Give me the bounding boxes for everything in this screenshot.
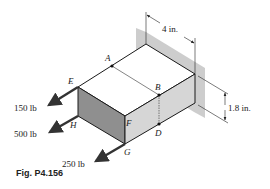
figure-caption: Fig. P4.156: [16, 168, 63, 178]
label-E: E: [67, 76, 74, 86]
point-B: [157, 93, 160, 96]
label-F: F: [125, 118, 132, 128]
label-A: A: [104, 53, 111, 63]
force-label-250: 250 lb: [62, 159, 85, 169]
label-D: D: [154, 128, 162, 138]
force-arrow-E: [49, 87, 78, 105]
label-G: G: [124, 147, 131, 157]
label-B: B: [155, 82, 161, 92]
force-label-150: 150 lb: [14, 103, 37, 113]
force-arrow-G: [96, 144, 125, 161]
dim-line-4in-a: [147, 15, 160, 23]
dim-label-height: 1.8 in.: [228, 103, 251, 113]
point-D: [157, 122, 160, 125]
force-label-500: 500 lb: [14, 129, 37, 139]
dim-line-4in-b: [184, 37, 194, 43]
diagram-canvas: A B D E F G H 150 lb 500 lb 250 lb 4 in.…: [0, 0, 270, 189]
point-A: [110, 64, 113, 67]
dim-label-width: 4 in.: [162, 24, 178, 34]
